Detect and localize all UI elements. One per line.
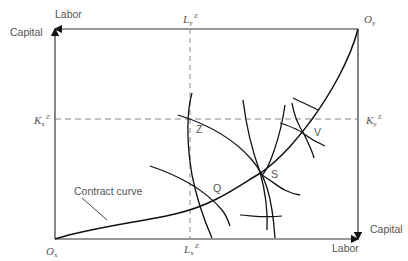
axis-label-labor-bottom: Labor bbox=[332, 242, 359, 254]
contract-curve bbox=[55, 29, 358, 239]
origin-y-label: Oy bbox=[364, 13, 376, 27]
reference-label-top: LyZ bbox=[182, 12, 198, 27]
axis-label-capital-right: Capital bbox=[370, 223, 403, 235]
point-label-s: S bbox=[271, 168, 278, 180]
isoquant-s-lower bbox=[240, 215, 282, 217]
edgeworth-box-diagram: Labor Capital Capital Labor Ox Oy LyZ Lx… bbox=[0, 0, 408, 261]
axis-label-capital-left: Capital bbox=[10, 26, 43, 38]
contract-curve-leader bbox=[82, 198, 107, 220]
isoquant-upper-right-s bbox=[293, 98, 318, 110]
reference-label-right: KyZ bbox=[365, 113, 382, 128]
contract-curve-label: Contract curve bbox=[74, 185, 142, 197]
reference-label-left: KxZ bbox=[33, 113, 50, 128]
point-label-q: Q bbox=[213, 182, 221, 194]
axis-label-labor-top: Labor bbox=[55, 8, 82, 20]
point-label-z: Z bbox=[196, 123, 203, 135]
isoquant-x-through-z bbox=[188, 93, 212, 238]
point-label-v: V bbox=[314, 126, 321, 138]
origin-x-label: Ox bbox=[46, 245, 58, 259]
reference-label-bottom: LxZ bbox=[183, 242, 199, 257]
